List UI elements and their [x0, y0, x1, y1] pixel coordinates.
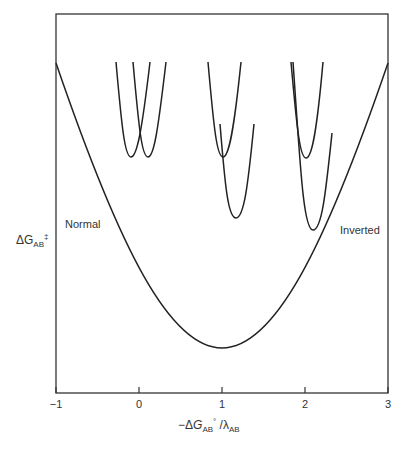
x-axis-label-prefix: −Δ — [178, 418, 193, 432]
x-axis-label-G: G — [193, 418, 202, 432]
x-axis-label: −ΔGAB° /λAB — [178, 417, 240, 434]
x-axis-label-slash: /λ — [216, 418, 229, 432]
marcus-parabola — [56, 63, 388, 348]
y-axis-label-sup: ‡ — [44, 232, 48, 241]
y-axis-label: ΔGAB‡ — [16, 232, 48, 249]
inverted-region-label: Inverted — [340, 224, 380, 236]
x-tick-label: 2 — [302, 398, 308, 410]
x-axis-label-sub1: AB — [202, 425, 213, 434]
plot-frame — [56, 14, 388, 393]
x-ticks — [56, 387, 388, 393]
surface-left-a — [116, 62, 150, 157]
x-axis-label-sub2: AB — [229, 425, 240, 434]
x-tick-label: 3 — [385, 398, 391, 410]
normal-region-label: Normal — [65, 218, 100, 230]
x-tick-label: 1 — [219, 398, 225, 410]
surface-middle-lower — [220, 124, 254, 218]
x-tick-label: −1 — [50, 398, 63, 410]
y-axis-label-sub: AB — [33, 240, 44, 249]
surface-middle-upper — [208, 62, 241, 157]
x-tick-label: 0 — [136, 398, 142, 410]
y-axis-label-main: ΔG — [16, 233, 33, 247]
